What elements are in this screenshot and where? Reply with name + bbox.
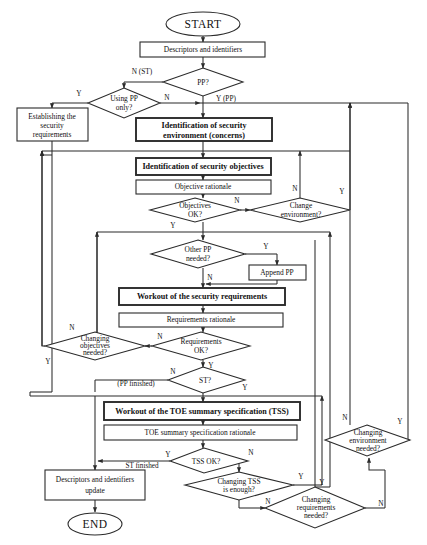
node-req-rationale: Requirements rationale — [119, 313, 283, 327]
node-descriptors-update: Descriptors and identifiers update — [45, 470, 145, 500]
other-pp-label-2: needed? — [186, 254, 210, 263]
changing-obj-label-3: needed? — [83, 348, 107, 357]
objectives-ok-label-2: OK? — [188, 210, 202, 219]
edge-label-otherpp-yes: Y — [263, 242, 269, 251]
node-change-env: Change environment? — [250, 198, 350, 222]
edge-label-changingtss-no: N — [265, 497, 271, 506]
node-ident-obj: Identification of security objectives — [136, 158, 271, 175]
append-pp-label: Append PP — [260, 268, 293, 277]
edge-label-objok-yes: Y — [170, 221, 176, 230]
edge-label-changingobj-no: N — [69, 323, 75, 332]
node-objectives-ok: Objectives OK? — [150, 198, 240, 222]
change-env-label-1: Change — [290, 201, 313, 210]
edge-label-tssok-yes-note: ST finished — [125, 462, 159, 470]
edge-label-reqok-no: N — [157, 332, 163, 341]
st-label: ST? — [199, 376, 211, 385]
node-start: START — [166, 12, 240, 36]
node-st: ST? — [168, 367, 245, 393]
establishing-label-3: requirements — [33, 130, 72, 139]
pp-label: PP? — [197, 78, 209, 87]
requirements-ok-label-2: OK? — [194, 346, 208, 355]
ident-obj-label: Identification of security objectives — [142, 162, 263, 171]
edge-label-usingpp-yes: Y — [76, 89, 82, 98]
edge-label-changingobj-yes: Y — [45, 357, 51, 366]
edge-label-otherpp-no: N — [207, 273, 213, 282]
node-changing-tss: Changing TSS is enough? — [185, 472, 293, 500]
descriptors-update-label-2: update — [85, 486, 105, 495]
node-ident-env: Identification of security environment (… — [136, 118, 272, 141]
edge-label-tssok-yes: Y — [165, 450, 171, 459]
workout-req-label: Workout of the security requirements — [137, 292, 267, 301]
node-changing-obj: Changing objectives needed? — [45, 332, 145, 360]
req-rationale-label: Requirements rationale — [167, 315, 236, 324]
edge-changingreq-no-to-env — [369, 458, 385, 470]
edge-rail-left-up — [42, 151, 52, 155]
establishing-label-2: security — [40, 121, 64, 130]
end-label: END — [83, 518, 108, 530]
edge-label-changeenv-no: N — [292, 184, 298, 193]
node-other-pp: Other PP needed? — [151, 240, 245, 268]
changing-tss-label-2: is enough? — [223, 485, 255, 494]
flowchart-canvas: START Descriptors and identifiers PP? Us… — [0, 0, 427, 545]
node-establishing: Establishing the security requirements — [17, 108, 88, 141]
node-workout-req: Workout of the security requirements — [119, 288, 285, 305]
node-tss-rationale: TOE summary specification rationale — [104, 425, 297, 440]
edge-label-pp-yes: Y (PP) — [216, 94, 236, 103]
objectives-ok-label-1: Objectives — [179, 201, 211, 210]
edge-label-changeenv-yes: Y — [339, 187, 345, 196]
node-end: END — [68, 500, 122, 535]
node-requirements-ok: Requirements OK? — [152, 332, 250, 360]
edge-label-objok-no: N — [234, 196, 240, 205]
tss-ok-label: TSS OK? — [192, 457, 221, 466]
tss-rationale-label: TOE summary specification rationale — [145, 428, 257, 437]
descriptors-update-label-1: Descriptors and identifiers — [56, 475, 135, 484]
using-pp-only-label-2: only? — [116, 103, 132, 112]
edge-changingobj-yes — [42, 151, 45, 346]
node-descriptors: Descriptors and identifiers — [140, 42, 265, 57]
node-append-pp: Append PP — [249, 265, 306, 280]
obj-rationale-label: Objective rationale — [175, 182, 232, 191]
node-pp: PP? — [163, 68, 243, 96]
edge-label-st-no-note: (PP finished) — [117, 380, 155, 388]
edge-label-tssok-no: N — [248, 448, 254, 457]
requirements-ok-label-1: Requirements — [180, 337, 221, 346]
edge-label-changingenvneeded-no: N — [342, 413, 348, 422]
establishing-label-1: Establishing the — [28, 112, 76, 121]
change-env-label-2: environment? — [281, 210, 322, 219]
edge-label-st-no: N — [170, 367, 176, 376]
node-changing-env-needed: Changing environment needed? — [325, 425, 410, 456]
changing-env-needed-label-3: needed? — [356, 444, 380, 453]
changing-req-label-3: needed? — [304, 511, 328, 520]
ident-env-label-1: Identification of security — [162, 121, 247, 130]
edge-label-usingpp-no: N — [164, 93, 170, 102]
edge-label-changingenvneeded-yes: Y — [397, 417, 403, 426]
node-workout-tss: Workout of the TOE summary specification… — [104, 402, 300, 420]
edge-label-st-yes: Y — [242, 383, 248, 392]
node-obj-rationale: Objective rationale — [136, 180, 271, 194]
edge-label-changingreq-no: N — [378, 499, 384, 508]
descriptors-label: Descriptors and identifiers — [164, 45, 243, 54]
edge-label-pp-no: N (ST) — [132, 67, 153, 76]
edge-label-changingtss-yes: Y — [298, 472, 304, 481]
ident-env-label-2: environment (concerns) — [163, 131, 245, 140]
node-tss-ok: TSS OK? — [170, 448, 248, 473]
workout-tss-label: Workout of the TOE summary specification… — [115, 407, 289, 416]
using-pp-only-label-1: Using PP — [110, 94, 138, 103]
node-using-pp-only: Using PP only? — [88, 88, 160, 118]
edge-label-reqok-yes: Y — [208, 361, 214, 370]
edge-label-changingreq-yes: Y — [319, 478, 325, 487]
node-changing-req: Changing requirements needed? — [265, 487, 365, 528]
other-pp-label-1: Other PP — [185, 245, 212, 254]
start-label: START — [185, 18, 222, 30]
